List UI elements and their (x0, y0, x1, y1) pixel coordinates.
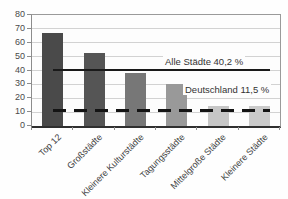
gridline (32, 28, 280, 29)
x-axis-tick-mark (196, 127, 197, 130)
y-axis-tick-label: 20 (3, 93, 25, 102)
reference-line (53, 109, 270, 112)
x-axis-tick-mark (155, 127, 156, 130)
bar (84, 53, 105, 126)
bar (42, 33, 63, 126)
y-axis-tick-mark (27, 125, 31, 126)
bar (125, 73, 146, 126)
y-axis-tick-label: 60 (3, 38, 25, 47)
y-axis-tick-label: 80 (3, 10, 25, 19)
y-axis-tick-label: 0 (3, 121, 25, 130)
reference-line-label: Alle Städte 40,2 % (163, 56, 245, 67)
y-axis-tick-label: 30 (3, 79, 25, 88)
x-axis-tick-mark (114, 127, 115, 130)
y-axis-tick-label: 70 (3, 24, 25, 33)
y-axis-tick-mark (27, 14, 31, 15)
y-axis-tick-mark (27, 70, 31, 71)
gridline (32, 42, 280, 43)
x-axis-tick-mark (279, 127, 280, 130)
y-axis-tick-mark (27, 83, 31, 84)
y-axis-tick-mark (27, 111, 31, 112)
x-axis-tick-mark (72, 127, 73, 130)
y-axis-tick-mark (27, 28, 31, 29)
bar-chart: Alle Städte 40,2 %Deutschland 11,5 % 010… (0, 0, 288, 199)
y-axis-tick-mark (27, 42, 31, 43)
reference-line-label: Deutschland 11,5 % (183, 84, 271, 95)
y-axis-tick-label: 10 (3, 107, 25, 116)
reference-line (53, 69, 270, 71)
x-axis-tick-mark (238, 127, 239, 130)
y-axis-tick-label: 50 (3, 52, 25, 61)
plot-area: Alle Städte 40,2 %Deutschland 11,5 % (31, 14, 281, 128)
x-axis-tick-mark (31, 127, 32, 130)
y-axis-tick-label: 40 (3, 66, 25, 75)
gridline (32, 98, 280, 99)
y-axis-tick-mark (27, 56, 31, 57)
y-axis-tick-mark (27, 97, 31, 98)
x-axis-label: Top 12 (37, 132, 63, 158)
x-axis-label: Großstädte (65, 132, 104, 171)
